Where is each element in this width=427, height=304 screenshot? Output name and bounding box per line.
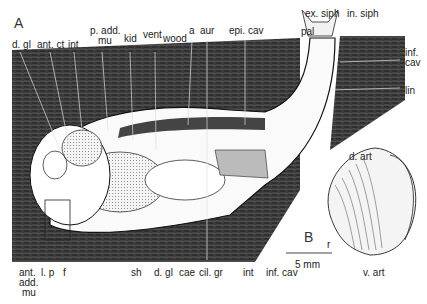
anatomy-label: in. siph (347, 9, 379, 19)
anatomy-label: d. gl (154, 268, 173, 278)
anatomy-label: lin (405, 86, 415, 96)
anatomy-label: ant. ct (37, 40, 64, 50)
anatomy-label: ex. siph (305, 9, 339, 19)
wood-block-right (330, 36, 405, 150)
anatomy-label: kid (124, 34, 137, 44)
anatomy-label: cil. gr (199, 268, 223, 278)
anatomy-label: int (243, 268, 254, 278)
caecum (145, 160, 225, 200)
anatomy-label: l. p (41, 268, 54, 278)
anatomy-label: pal (301, 27, 314, 37)
anatomy-label: d. art (349, 152, 372, 162)
anatomy-label: mu (22, 288, 36, 298)
anatomy-label: d. gl (12, 40, 31, 50)
anatomy-label: wood (163, 34, 187, 44)
anatomy-label: aur (200, 26, 214, 36)
anatomy-label: a (189, 26, 195, 36)
anatomy-label: mu (98, 36, 112, 46)
anatomy-label: epi. cav (229, 26, 263, 36)
anatomy-label: vent (143, 30, 162, 40)
anatomy-label: f (63, 268, 66, 278)
panel-label-b: B (304, 232, 313, 242)
shell-valve-b (328, 148, 416, 255)
scale-bar-label: 5 mm (295, 260, 320, 270)
anatomy-label: v. art (363, 268, 384, 278)
anatomy-label: cae (179, 268, 195, 278)
shipworm-anatomy-figure: A B 5 mm d. glant. ctintp. add.mukidvent… (0, 0, 427, 304)
anatomy-label: r (327, 240, 330, 250)
anatomy-label: cav (405, 58, 421, 68)
anatomy-label: int (68, 40, 79, 50)
gill (215, 150, 268, 178)
anatomy-label: inf. cav (266, 268, 298, 278)
anatomy-label: sh (131, 268, 142, 278)
panel-label-a: A (14, 18, 23, 28)
